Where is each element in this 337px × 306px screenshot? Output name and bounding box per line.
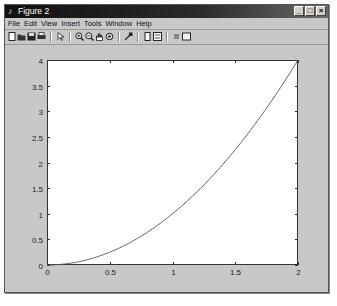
x-tick-label: 1 bbox=[171, 268, 176, 277]
x-tick-label: 0.5 bbox=[105, 268, 117, 277]
x-tick-label: 0 bbox=[45, 268, 50, 277]
y-tick-label: 3 bbox=[39, 108, 44, 117]
y-tick-label: 0.5 bbox=[32, 236, 44, 245]
y-tick-label: 1.5 bbox=[32, 185, 44, 194]
y-tick-label: 3.5 bbox=[32, 83, 44, 92]
y-tick-label: 2.5 bbox=[32, 134, 44, 143]
y-tick-label: 0 bbox=[39, 262, 44, 271]
plot-area bbox=[47, 60, 298, 265]
plot-axes[interactable]: 00.511.522.533.5400.511.52 bbox=[0, 0, 337, 306]
y-tick-label: 2 bbox=[39, 160, 44, 169]
y-tick-label: 1 bbox=[39, 211, 44, 220]
y-tick-label: 4 bbox=[39, 57, 44, 66]
x-tick-label: 1.5 bbox=[230, 268, 242, 277]
x-tick-label: 2 bbox=[296, 268, 301, 277]
